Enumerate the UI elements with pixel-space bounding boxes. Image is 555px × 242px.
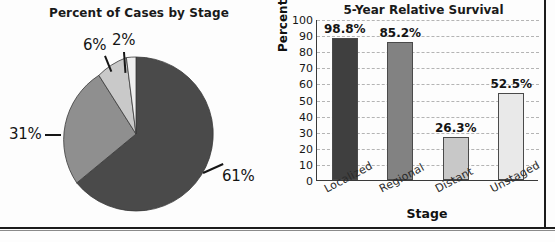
bar-chart-title: 5-Year Relative Survival: [316, 3, 531, 17]
y-tick-label: 50: [299, 95, 313, 106]
bar-chart-plot-area: 1009080706050403020100 98.8%85.2%26.3%52…: [316, 20, 538, 181]
pie-chart-graphic: [58, 56, 214, 212]
y-tick-label: 40: [299, 111, 313, 122]
y-tick-label: 20: [299, 143, 313, 154]
y-tick-label: 10: [299, 159, 313, 170]
pie-leader-line-regional: [45, 134, 61, 136]
bar-value-label-unstaged: 52.5%: [490, 77, 532, 91]
figure-canvas: Percent of Cases by Stage 6% 2% 31% 61% …: [0, 0, 555, 242]
page-bottom-rule: [0, 227, 555, 229]
bar-chart-panel: 5-Year Relative Survival Percent 1009080…: [278, 0, 545, 227]
y-tick-label: 60: [299, 79, 313, 90]
pie-chart-panel: Percent of Cases by Stage 6% 2% 31% 61%: [0, 0, 278, 227]
pie-svg: [58, 56, 214, 212]
bar-chart-y-axis-title: Percent: [276, 0, 290, 52]
pie-label-regional: 31%: [9, 125, 41, 143]
y-tick-label: 90: [299, 31, 313, 42]
bar-value-label-distant: 26.3%: [435, 121, 477, 135]
pie-label-unstaged: 6%: [83, 36, 106, 54]
pie-chart-title: Percent of Cases by Stage: [0, 6, 278, 20]
bar-value-label-regional: 85.2%: [379, 26, 421, 40]
y-tick-label: 30: [299, 127, 313, 138]
page-right-rule: [544, 0, 546, 227]
y-tick-label: 0: [306, 176, 313, 187]
bar-regional: [387, 42, 413, 180]
bar-localized: [332, 38, 358, 180]
bar-chart-x-axis-title: Stage: [316, 206, 538, 221]
gridline: [317, 20, 539, 21]
y-tick-label: 80: [299, 47, 313, 58]
pie-label-distant: 2%: [112, 31, 135, 49]
y-tick-label: 100: [292, 15, 313, 26]
pie-label-localized: 61%: [222, 167, 254, 185]
y-tick-label: 70: [299, 63, 313, 74]
bar-value-label-localized: 98.8%: [324, 22, 366, 36]
page-bottom-rule-secondary: [0, 230, 555, 231]
